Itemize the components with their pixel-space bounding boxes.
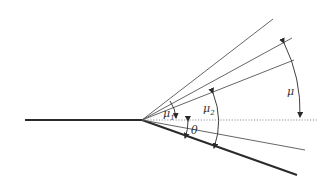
fan-line-4 <box>142 120 305 150</box>
label-mu: μ <box>287 85 294 98</box>
label-theta: θ <box>191 124 198 137</box>
angle-arc-mu2 <box>213 93 219 148</box>
expansion-fan-diagram: μ μ2 μ1 θ <box>0 0 328 183</box>
label-mu2: μ2 <box>203 102 215 117</box>
deflected-wall <box>142 120 297 175</box>
angle-arc-mu <box>284 43 300 117</box>
label-mu1: μ1 <box>163 107 175 122</box>
